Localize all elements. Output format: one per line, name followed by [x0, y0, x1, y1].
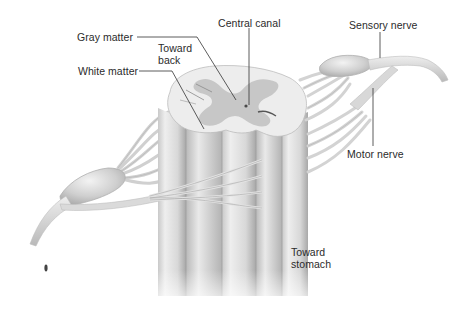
central-canal-marker	[244, 104, 247, 107]
label-central-canal: Central canal	[218, 17, 281, 29]
label-sensory-nerve: Sensory nerve	[349, 19, 417, 31]
label-toward-stomach-line1: Toward	[291, 246, 331, 258]
label-toward-stomach: Toward stomach	[291, 246, 331, 270]
label-toward-stomach-line2: stomach	[291, 258, 331, 270]
label-gray-matter: Gray matter	[77, 31, 133, 43]
label-toward-back-line2: back	[158, 54, 192, 66]
left-spinal-nerve	[30, 112, 172, 246]
label-toward-back: Toward back	[158, 42, 192, 66]
label-motor-nerve: Motor nerve	[347, 148, 404, 160]
label-white-matter: White matter	[78, 65, 138, 77]
stray-mark	[44, 265, 47, 272]
label-toward-back-line1: Toward	[158, 42, 192, 54]
